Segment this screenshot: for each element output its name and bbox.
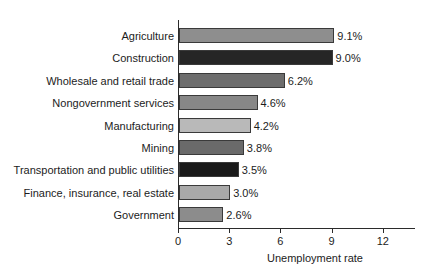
bar	[179, 162, 239, 177]
x-tick-mark	[383, 228, 384, 233]
x-tick-mark	[280, 228, 281, 233]
bar-row: Agriculture9.1%	[0, 25, 432, 47]
x-tick-label: 9	[317, 235, 347, 248]
bar	[179, 73, 285, 88]
bar	[179, 50, 333, 65]
bar-row: Nongovernment services4.6%	[0, 92, 432, 114]
x-tick-label: 12	[368, 235, 398, 248]
category-label: Finance, insurance, real estate	[24, 182, 174, 204]
bar-value-label: 4.6%	[261, 93, 286, 113]
category-label: Government	[113, 204, 174, 226]
x-tick-label: 3	[214, 235, 244, 248]
bar-row: Mining3.8%	[0, 137, 432, 159]
x-tick-label: 6	[265, 235, 295, 248]
bar-value-label: 2.6%	[226, 205, 251, 225]
x-tick-mark	[178, 228, 179, 233]
bar-value-label: 9.0%	[336, 48, 361, 68]
bar-row: Transportation and public utilities3.5%	[0, 159, 432, 181]
x-axis-title: Unemployment rate	[178, 252, 432, 264]
bar-row: Finance, insurance, real estate3.0%	[0, 182, 432, 204]
category-label: Wholesale and retail trade	[46, 70, 174, 92]
category-label: Nongovernment services	[52, 92, 174, 114]
bar	[179, 95, 258, 110]
bar-row: Manufacturing4.2%	[0, 115, 432, 137]
unemployment-rate-bar-chart: Agriculture9.1%Construction9.0%Wholesale…	[0, 0, 432, 278]
plot-area: Agriculture9.1%Construction9.0%Wholesale…	[0, 0, 432, 278]
bar	[179, 28, 334, 43]
x-axis-line	[178, 228, 415, 229]
bar-value-label: 3.0%	[233, 183, 258, 203]
bar-value-label: 4.2%	[254, 116, 279, 136]
category-label: Construction	[112, 47, 174, 69]
category-label: Mining	[142, 137, 174, 159]
category-label: Manufacturing	[104, 115, 174, 137]
x-tick-mark	[229, 228, 230, 233]
x-tick-label: 0	[163, 235, 193, 248]
bar-value-label: 6.2%	[288, 71, 313, 91]
category-label: Agriculture	[121, 25, 174, 47]
bar	[179, 185, 230, 200]
bar-row: Wholesale and retail trade6.2%	[0, 70, 432, 92]
bar-value-label: 9.1%	[337, 26, 362, 46]
bar-value-label: 3.8%	[247, 138, 272, 158]
bar-row: Government2.6%	[0, 204, 432, 226]
bar	[179, 207, 223, 222]
bar	[179, 140, 244, 155]
bar-value-label: 3.5%	[242, 160, 267, 180]
category-label: Transportation and public utilities	[14, 159, 174, 181]
bar-row: Construction9.0%	[0, 47, 432, 69]
x-tick-mark	[332, 228, 333, 233]
bar	[179, 118, 251, 133]
